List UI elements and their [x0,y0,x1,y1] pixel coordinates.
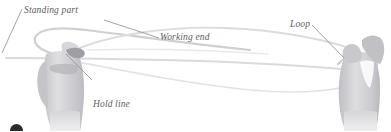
rope-working-strand [70,28,360,52]
right-hand-thumb [342,44,362,63]
label-hold-line-row2: together [93,131,130,132]
left-hand-wrist [50,111,80,132]
illustration-artwork [0,0,391,131]
left-hand-thumb [37,62,48,108]
leader-loop [312,25,344,58]
knot-illustration-figure: Standing part Working end Loop Hold line… [0,0,391,131]
label-hold-line-row1: Hold line [93,99,130,110]
page-marker-circle [10,124,23,131]
right-hand [339,36,384,132]
leader-standing-part [2,9,22,53]
label-working-end: Working end [160,32,210,43]
label-hold-line-together: Hold line together [93,78,130,131]
label-loop: Loop [290,19,310,30]
right-hand-wrist [344,111,377,132]
left-hand [37,42,85,131]
label-standing-part: Standing part [24,5,78,16]
